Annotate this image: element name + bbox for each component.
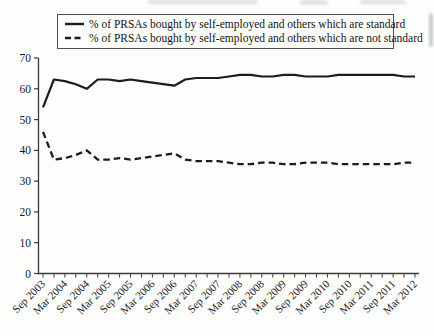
chart-legend: % of PRSAs bought by self-employed and o… xyxy=(57,14,394,49)
y-tick-label: 30 xyxy=(20,175,32,187)
y-tick-label: 40 xyxy=(20,144,32,156)
y-tick-label: 70 xyxy=(20,52,32,64)
legend-dashed-line-sample xyxy=(64,34,86,42)
series-solid-line xyxy=(43,75,415,107)
scanned-chart-page: 010203040506070Sep 2003Mar 2004Sep 2004M… xyxy=(0,0,434,336)
y-tick-label: 50 xyxy=(20,114,32,126)
y-tick-label: 20 xyxy=(20,206,32,218)
y-tick-label: 60 xyxy=(20,83,32,95)
legend-solid-line-sample xyxy=(64,20,86,28)
y-tick-label: 10 xyxy=(20,237,32,249)
legend-label-standard: % of PRSAs bought by self-employed and o… xyxy=(89,17,405,31)
legend-item-standard: % of PRSAs bought by self-employed and o… xyxy=(64,17,387,31)
legend-label-not-standard: % of PRSAs bought by self-employed and o… xyxy=(89,31,423,45)
axis-spine xyxy=(39,58,420,274)
axes: 010203040506070Sep 2003Mar 2004Sep 2004M… xyxy=(10,52,420,316)
series-dashed-line xyxy=(43,132,415,164)
line-chart: 010203040506070Sep 2003Mar 2004Sep 2004M… xyxy=(0,0,434,336)
y-tick-label: 0 xyxy=(25,268,31,280)
legend-item-not-standard: % of PRSAs bought by self-employed and o… xyxy=(64,31,387,45)
